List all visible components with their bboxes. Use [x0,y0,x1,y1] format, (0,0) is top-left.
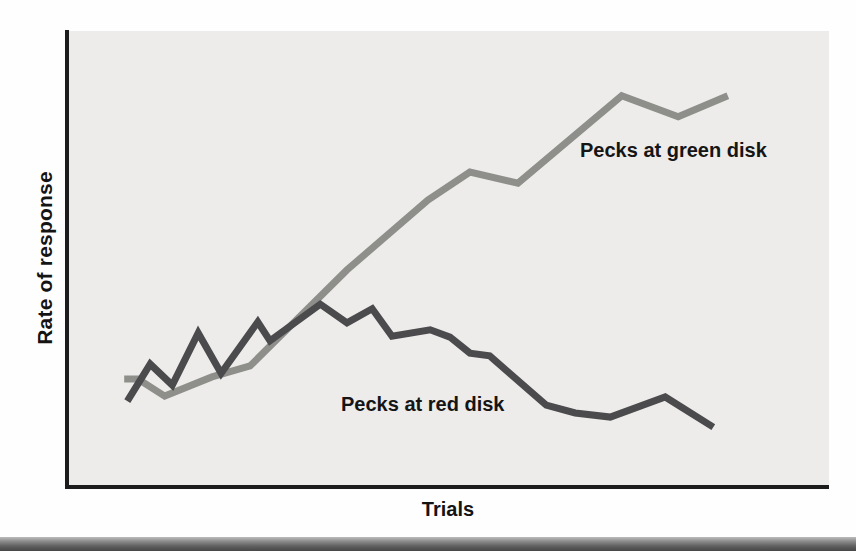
y-axis-label: Rate of response [33,171,57,345]
y-axis-line [65,30,69,489]
chart-lines [0,0,856,551]
x-axis-label: Trials [67,498,829,521]
x-axis-line [65,485,829,489]
page-divider-bar [0,537,856,551]
figure: Rate of response Trials Pecks at green d… [0,0,856,551]
green-series-label: Pecks at green disk [580,139,767,162]
red-series-label: Pecks at red disk [341,393,504,416]
